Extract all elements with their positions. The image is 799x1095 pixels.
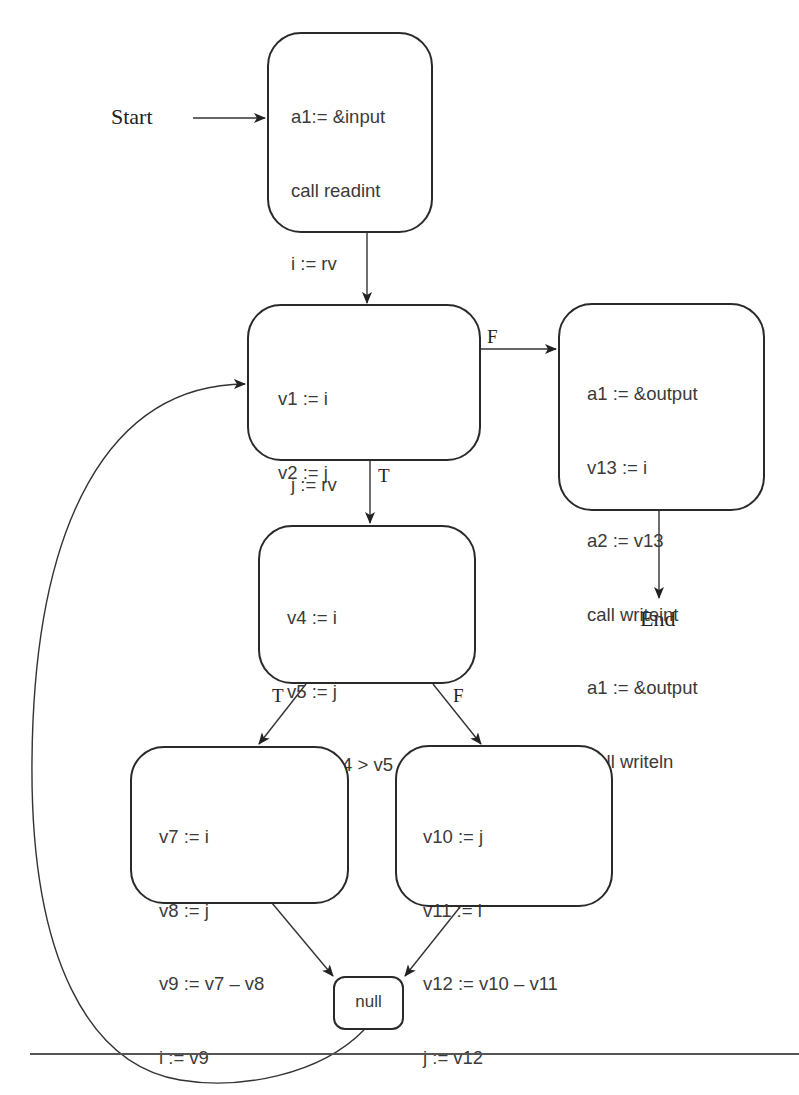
code-line: j := v12 <box>423 1046 558 1071</box>
code-line: v12 := v10 – v11 <box>423 972 558 997</box>
code-line: i := v9 <box>159 1046 264 1071</box>
then-branch-block: v7 := i v8 := j v9 := v7 – v8 i := v9 <box>130 746 349 904</box>
code-line: v8 := j <box>159 899 264 924</box>
code-line: v10 := j <box>423 825 558 850</box>
code-line: v1 := i <box>278 387 395 412</box>
edge-label-compare-false: F <box>453 685 464 707</box>
else-branch-block: v10 := j v11 := i v12 := v10 – v11 j := … <box>395 745 613 907</box>
join-null-block: null <box>333 976 404 1030</box>
code-line: v5 := j <box>287 680 393 705</box>
join-label: null <box>335 992 402 1012</box>
code-line: v11 := i <box>423 899 558 924</box>
code-line: v4 := i <box>287 606 393 631</box>
bottom-rule <box>30 1053 799 1055</box>
entry-block: a1:= &input call readint i := rv a1 := &… <box>267 32 433 233</box>
code-line: v7 := i <box>159 825 264 850</box>
code-line: a1:= &input <box>291 105 390 130</box>
code-line: call writeint <box>587 603 698 628</box>
edge-label-loop-true: T <box>378 465 390 487</box>
code-line: a1 := &output <box>587 382 698 407</box>
code-line: call readint <box>291 179 390 204</box>
edge-then-join <box>272 903 333 976</box>
code-line: a1 := &output <box>587 676 698 701</box>
loop-test-block: v1 := i v2 := j v3 := v1 <> v2 test v3 <box>247 304 481 461</box>
compare-block: v4 := i v5 := j v6 := v4 > v5 test v6 <box>258 525 476 684</box>
code-line: a2 := v13 <box>587 529 698 554</box>
edge-label-loop-false: F <box>487 326 498 348</box>
code-line: i := rv <box>291 252 390 277</box>
start-label: Start <box>111 104 153 130</box>
code-line: v13 := i <box>587 456 698 481</box>
exit-block: a1 := &output v13 := i a2 := v13 call wr… <box>558 303 765 511</box>
edge-label-compare-true: T <box>272 685 284 707</box>
code-line: v9 := v7 – v8 <box>159 972 264 997</box>
